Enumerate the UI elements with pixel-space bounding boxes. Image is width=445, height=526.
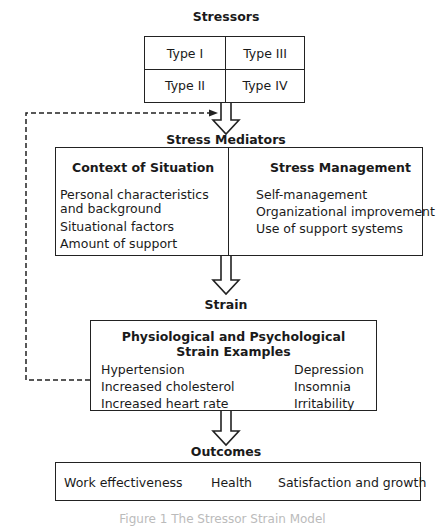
- strain-heading-line1: Physiological and Psychological: [91, 329, 376, 344]
- stressors-title: Stressors: [176, 9, 276, 24]
- physiological-item: Increased cholesterol: [101, 378, 235, 395]
- management-heading: Stress Management: [270, 160, 411, 175]
- feedback-arrowhead-icon: [209, 110, 218, 117]
- stressor-type-2: Type II: [145, 70, 225, 101]
- management-item: Self-management: [256, 186, 435, 203]
- stressor-type-1: Type I: [145, 37, 225, 69]
- management-item: Use of support systems: [256, 220, 435, 237]
- context-item: and background: [60, 202, 209, 216]
- stressor-type-4: Type IV: [226, 70, 304, 101]
- physiological-item: Increased heart rate: [101, 395, 235, 412]
- outcome-health: Health: [211, 474, 252, 491]
- management-item: Organizational improvement: [256, 203, 435, 220]
- hollow-arrow-icon: [213, 410, 239, 445]
- outcomes-box: Work effectiveness Health Satisfaction a…: [55, 462, 421, 501]
- hollow-arrow-icon: [213, 255, 239, 294]
- strain-box: Physiological and Psychological Strain E…: [90, 320, 377, 411]
- context-heading: Context of Situation: [72, 160, 214, 175]
- stressor-type-3: Type III: [226, 37, 304, 69]
- physiological-list: Hypertension Increased cholesterol Incre…: [101, 361, 235, 412]
- outcome-work-effectiveness: Work effectiveness: [64, 474, 183, 491]
- psychological-item: Depression: [294, 361, 364, 378]
- context-list: Personal characteristics and background …: [60, 188, 209, 252]
- context-item: Personal characteristics: [60, 188, 209, 202]
- psychological-item: Insomnia: [294, 378, 364, 395]
- mediators-divider: [228, 148, 229, 255]
- hollow-arrow-icon: [213, 102, 239, 134]
- stressors-table: Type I Type III Type II Type IV: [144, 36, 305, 103]
- figure-caption: Figure 1 The Stressor Strain Model: [0, 512, 445, 526]
- physiological-item: Hypertension: [101, 361, 235, 378]
- context-item: Situational factors: [60, 218, 209, 235]
- psychological-item: Irritability: [294, 395, 364, 412]
- psychological-list: Depression Insomnia Irritability: [294, 361, 364, 412]
- strain-title: Strain: [186, 297, 266, 312]
- strain-heading-line2: Strain Examples: [91, 344, 376, 359]
- context-item: Amount of support: [60, 235, 209, 252]
- management-list: Self-management Organizational improveme…: [256, 186, 435, 237]
- mediators-title: Stress Mediators: [156, 132, 296, 147]
- mediators-box: Context of Situation Personal characteri…: [55, 147, 423, 256]
- outcome-satisfaction-growth: Satisfaction and growth: [278, 474, 426, 491]
- outcomes-title: Outcomes: [176, 444, 276, 459]
